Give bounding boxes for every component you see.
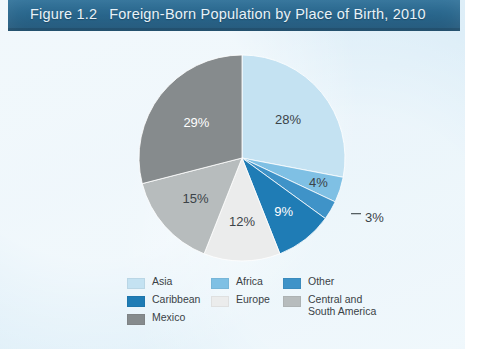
pie-slice-label: 15% — [183, 191, 209, 206]
legend-item-label: Europe — [236, 294, 270, 306]
legend-item[interactable]: Asia — [127, 276, 213, 289]
legend-item[interactable]: Africa — [211, 276, 287, 289]
pie-slice-label: 3% — [365, 210, 384, 225]
legend-item-label: Asia — [152, 276, 172, 288]
pie-slice-label: 4% — [309, 175, 328, 190]
legend-item[interactable]: Central and South America — [283, 294, 379, 317]
pie-slice-label: 29% — [183, 115, 209, 130]
legend-column-3: OtherCentral and South America — [283, 276, 379, 322]
legend-item-label: Africa — [236, 276, 263, 288]
legend-item[interactable]: Caribbean — [127, 294, 213, 307]
legend-swatch — [283, 278, 301, 289]
pie-slice-label: 12% — [229, 214, 255, 229]
legend-item[interactable]: Mexico — [127, 312, 213, 325]
legend-column-2: AfricaEurope — [211, 276, 287, 312]
legend-item-label: Mexico — [152, 312, 185, 324]
figure-container: Figure 1.2Foreign-Born Population by Pla… — [0, 0, 479, 358]
legend-swatch — [127, 296, 145, 307]
legend-swatch — [283, 296, 301, 307]
pie-slice-label: 9% — [274, 204, 293, 219]
legend-swatch — [127, 314, 145, 325]
legend-item-label: Other — [308, 276, 334, 288]
legend-item[interactable]: Other — [283, 276, 379, 289]
legend-item[interactable]: Europe — [211, 294, 287, 307]
legend-column-1: AsiaCaribbeanMexico — [127, 276, 213, 330]
legend-swatch — [211, 296, 229, 307]
pie-slice-label: 28% — [275, 112, 301, 127]
legend-item-label: Central and South America — [308, 294, 376, 317]
legend-swatch — [127, 278, 145, 289]
pie-slices — [139, 55, 345, 261]
legend-item-label: Caribbean — [152, 294, 200, 306]
legend-swatch — [211, 278, 229, 289]
